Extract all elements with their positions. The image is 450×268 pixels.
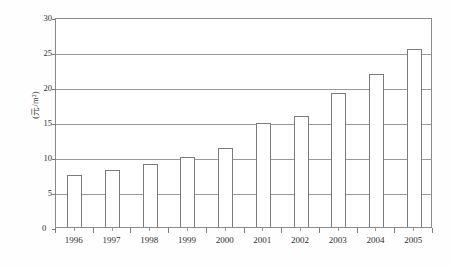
x-axis-tick-label: 2005 xyxy=(404,234,422,246)
x-axis-minor-tick xyxy=(413,228,414,231)
x-axis-tick xyxy=(130,228,131,233)
x-axis-tick xyxy=(281,228,282,233)
x-axis-minor-tick xyxy=(375,228,376,231)
x-axis-minor-tick xyxy=(74,228,75,231)
y-axis-tick-label: 20 xyxy=(30,84,52,93)
bar xyxy=(331,93,346,227)
y-axis-tick-label: 15 xyxy=(30,119,52,128)
x-axis-tick xyxy=(244,228,245,233)
bar xyxy=(218,148,233,227)
y-axis-tick-label: 30 xyxy=(30,14,52,23)
x-axis-minor-tick xyxy=(338,228,339,231)
bar xyxy=(369,74,384,227)
y-axis-origin-label: 0 xyxy=(42,223,46,233)
x-axis-minor-tick xyxy=(112,228,113,231)
x-axis-minor-tick xyxy=(262,228,263,231)
x-axis-tick-label: 2003 xyxy=(329,234,347,246)
y-axis-tick-labels: 51015202530 xyxy=(30,0,52,268)
x-axis-minor-tick xyxy=(187,228,188,231)
x-axis-tick-labels: 1996199719981999200020012002200320042005 xyxy=(55,234,432,250)
bar-chart-figure: (元/m²) 51015202530 0 1996199719981999200… xyxy=(0,0,450,268)
x-axis-tick-label: 2001 xyxy=(253,234,271,246)
x-axis-tick-label: 2004 xyxy=(366,234,384,246)
x-axis-tick-label: 1999 xyxy=(178,234,196,246)
x-axis-tick xyxy=(206,228,207,233)
x-axis-tick-label: 1996 xyxy=(65,234,83,246)
y-axis-tick-label: 10 xyxy=(30,154,52,163)
y-axis-tick-label: 25 xyxy=(30,49,52,58)
x-axis-tick-label: 2000 xyxy=(216,234,234,246)
bar xyxy=(256,123,271,227)
x-axis-tick xyxy=(55,228,56,233)
bar xyxy=(407,49,422,228)
x-axis-tick xyxy=(168,228,169,233)
x-axis-tick xyxy=(432,228,433,233)
y-axis-tick-label: 5 xyxy=(30,189,52,198)
x-axis-minor-tick xyxy=(225,228,226,231)
x-axis-tick-label: 1998 xyxy=(140,234,158,246)
x-axis-tick-label: 2002 xyxy=(291,234,309,246)
x-axis-tick xyxy=(319,228,320,233)
bar xyxy=(294,116,309,227)
x-axis-tick xyxy=(357,228,358,233)
x-axis-minor-tick xyxy=(149,228,150,231)
bars-layer xyxy=(56,19,431,227)
bar xyxy=(67,175,82,228)
x-axis-tick xyxy=(93,228,94,233)
x-axis-minor-tick xyxy=(300,228,301,231)
bar xyxy=(180,157,195,227)
x-axis-tick xyxy=(394,228,395,233)
bar xyxy=(143,164,158,227)
bar xyxy=(105,170,120,227)
x-axis-tick-label: 1997 xyxy=(103,234,121,246)
plot-area xyxy=(55,18,432,228)
